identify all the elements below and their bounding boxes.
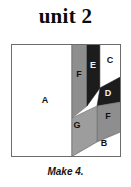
patch-label-c: C (107, 55, 114, 65)
patch-label-f-lower: F (105, 111, 111, 121)
page-title: unit 2 (0, 3, 131, 29)
patch-label-a: A (42, 95, 49, 105)
patch-label-f-upper: F (76, 69, 82, 79)
make-count-caption: Make 4. (0, 166, 131, 177)
patch-label-e: E (90, 60, 96, 70)
quilt-block-svg: A F E C D F G B (11, 44, 121, 157)
patch-label-b: B (101, 138, 108, 148)
patch-label-g: G (73, 120, 80, 130)
patch-f-upper (72, 45, 87, 119)
page-root: unit 2 A F E C (0, 0, 131, 187)
patch-label-d: D (105, 88, 112, 98)
quilt-block-diagram: A F E C D F G B (11, 44, 121, 157)
